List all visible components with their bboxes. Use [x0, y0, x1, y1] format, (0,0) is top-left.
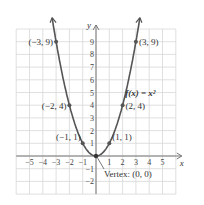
- point-label: (2, 4): [126, 101, 146, 111]
- x-tick-label: 3: [134, 158, 138, 167]
- point-label: (−3, 9): [29, 37, 54, 47]
- point-label: (−2, 4): [42, 101, 67, 111]
- point-label: (−1, 1): [56, 132, 81, 142]
- data-point: [81, 141, 85, 145]
- y-tick-label: 1: [90, 139, 94, 148]
- y-tick-label: 8: [90, 50, 94, 59]
- y-tick-label: 3: [90, 114, 94, 123]
- x-tick-label: 5: [161, 158, 165, 167]
- x-tick-label: −5: [25, 158, 34, 167]
- x-tick-label: 2: [121, 158, 125, 167]
- point-label: (1, 1): [112, 132, 132, 142]
- data-point: [54, 40, 58, 44]
- x-tick-label: −3: [52, 158, 61, 167]
- y-tick-label: 7: [90, 63, 94, 72]
- x-tick-label: −4: [39, 158, 48, 167]
- y-tick-label: 5: [90, 89, 94, 98]
- y-tick-label: −1: [85, 165, 94, 174]
- vertex-label: Vertex: (0, 0): [104, 169, 152, 179]
- data-point: [134, 40, 138, 44]
- x-tick-label: −2: [65, 158, 74, 167]
- function-label: f(x) = x²: [125, 88, 156, 98]
- parabola-chart: xy−5−4−3−2−112345−2−1123456789(−3, 9)(−2…: [0, 0, 204, 205]
- x-tick-label: 1: [107, 158, 111, 167]
- y-axis-label: y: [86, 20, 91, 30]
- y-tick-label: 4: [90, 101, 94, 110]
- x-axis-label: x: [179, 158, 184, 168]
- vertex-leader-line: [97, 157, 104, 169]
- y-tick-label: −2: [85, 177, 94, 186]
- data-point: [121, 103, 125, 107]
- y-tick-label: 9: [90, 38, 94, 47]
- point-label: (3, 9): [139, 37, 159, 47]
- y-tick-label: 6: [90, 76, 94, 85]
- x-tick-label: 4: [147, 158, 151, 167]
- data-point: [107, 141, 111, 145]
- data-point: [67, 103, 71, 107]
- y-tick-label: 2: [90, 127, 94, 136]
